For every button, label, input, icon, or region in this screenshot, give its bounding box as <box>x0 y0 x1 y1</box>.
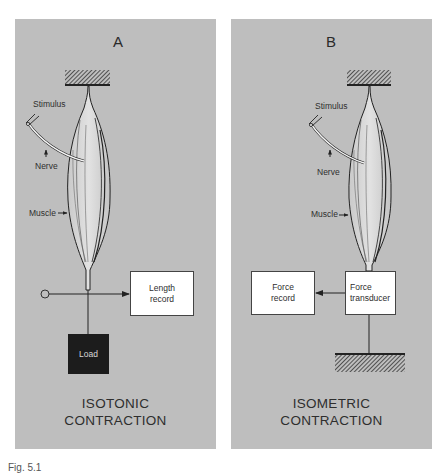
nerve-label-b: Nerve <box>317 168 340 177</box>
stimulus-label-b: Stimulus <box>315 102 348 111</box>
nerve-label-a: Nerve <box>35 162 58 171</box>
muscle-label-a: Muscle <box>29 209 56 218</box>
muscle-a <box>68 86 110 290</box>
load-label: Load <box>79 349 98 359</box>
length-record-line1: Length <box>149 283 175 294</box>
isotonic-title-line1: ISOTONIC <box>15 396 216 413</box>
force-transducer-line2: transducer <box>350 293 390 304</box>
panel-label-b: B <box>326 34 336 49</box>
muscle-label-b: Muscle <box>311 210 338 219</box>
isometric-title: ISOMETRIC CONTRACTION <box>231 396 432 430</box>
muscle-b <box>349 86 391 271</box>
fixed-support-top-a <box>65 70 110 85</box>
isotonic-title-line2: CONTRACTION <box>15 413 216 430</box>
length-record-box: Length record <box>130 271 194 316</box>
isometric-title-line1: ISOMETRIC <box>231 396 432 413</box>
force-transducer-line1: Force <box>350 282 372 293</box>
load-block: Load <box>68 334 109 374</box>
panel-label-a: A <box>113 34 123 49</box>
force-transducer-box: Force transducer <box>345 271 396 315</box>
force-record-box: Force record <box>251 271 315 315</box>
fixed-support-top-b <box>347 70 391 85</box>
stimulus-label-a: Stimulus <box>33 100 66 109</box>
figure-caption: Fig. 5.1 <box>8 462 41 473</box>
isotonic-title: ISOTONIC CONTRACTION <box>15 396 216 430</box>
isometric-title-line2: CONTRACTION <box>231 413 432 430</box>
force-record-line1: Force <box>272 282 294 293</box>
length-record-line2: record <box>150 294 174 305</box>
force-record-line2: record <box>271 293 295 304</box>
fixed-support-bottom-b <box>335 354 405 372</box>
